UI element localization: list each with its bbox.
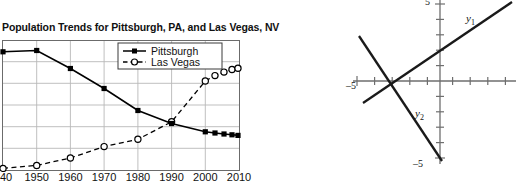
- curve-label-y2-sub: 2: [420, 113, 424, 122]
- legend-marker-las-vegas: [132, 59, 138, 65]
- line-y1: [363, 2, 512, 103]
- x-axis-tick-label: 2000: [193, 171, 217, 183]
- population-chart-figure: Population Trends for Pittsburgh, PA, an…: [0, 0, 270, 189]
- x-axis-tick-label: 1980: [126, 171, 150, 183]
- legend-label-las-vegas: Las Vegas: [151, 56, 200, 68]
- chart-legend: Pittsburgh Las Vegas: [118, 43, 222, 69]
- x-axis-tick-label: 940: [0, 171, 12, 183]
- legend-marker-pittsburgh: [132, 49, 137, 54]
- curve-label-y1-sub: 1: [471, 18, 475, 27]
- x-axis-tick-label: 2010: [227, 171, 251, 183]
- coordinate-plane-svg: [280, 0, 516, 189]
- curve-label-y1: y1: [466, 12, 475, 27]
- x-axis-label-neg5: –5: [346, 80, 356, 91]
- y-axis-label-neg5: –5: [413, 158, 423, 169]
- curve-label-y2: y2: [415, 107, 424, 122]
- x-axis-tick-label: 1960: [58, 171, 82, 183]
- page-title: Population Trends for Pittsburgh, PA, an…: [2, 21, 268, 33]
- x-axis-tick-label: 1950: [24, 171, 48, 183]
- y-axis-label-5: 5: [425, 0, 430, 7]
- coordinate-plane-figure: –5 5 –5 y1 y2: [280, 0, 516, 189]
- x-axis-tick-label: 1970: [92, 171, 116, 183]
- x-axis-tick-label: 1990: [159, 171, 183, 183]
- x-axis-tick-labels: 9401950196019701980199020002010: [0, 170, 252, 189]
- chart-plot-area: Pittsburgh Las Vegas: [0, 40, 250, 172]
- line-chart-svg: Pittsburgh Las Vegas: [0, 40, 250, 172]
